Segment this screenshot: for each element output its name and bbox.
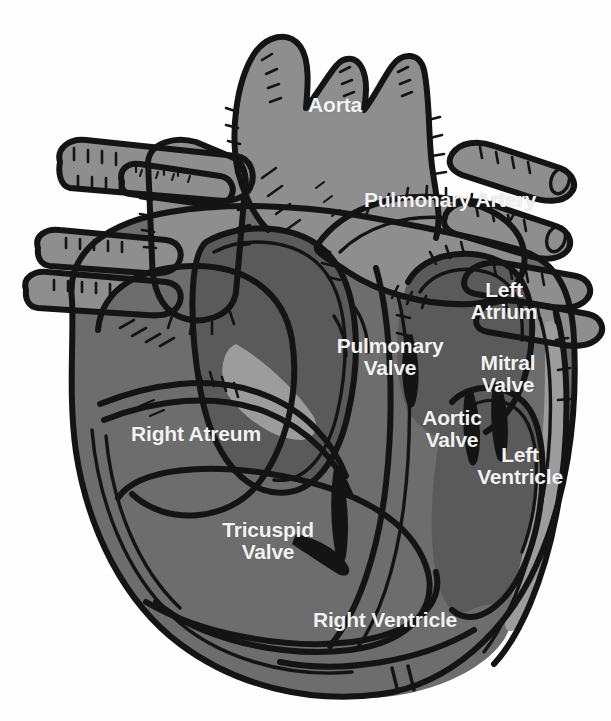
heart-anatomy-diagram: .ink { fill:none; stroke:#141414; stroke… [0,0,611,721]
heart-illustration: .ink { fill:none; stroke:#141414; stroke… [0,0,611,721]
